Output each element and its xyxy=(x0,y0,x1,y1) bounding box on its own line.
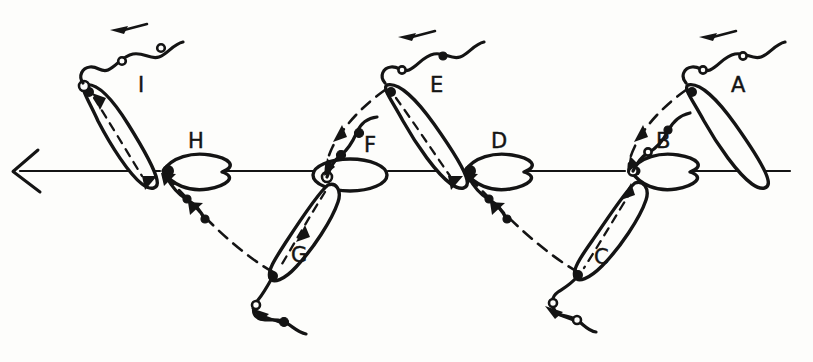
flagellum-bead-F-2 xyxy=(355,129,364,138)
flagellum-bead-E-1 xyxy=(398,66,405,73)
stage-label-F: F xyxy=(364,133,376,157)
stage-label-H: H xyxy=(188,129,204,153)
flagellum-I xyxy=(81,42,183,83)
flagellum-bead-I-2 xyxy=(157,44,165,52)
stage-label-G: G xyxy=(291,243,308,267)
trajectory-arrow-E-F-1 xyxy=(333,125,347,142)
flagellum-bead-F-1 xyxy=(337,151,346,160)
stage-G: G xyxy=(251,184,339,334)
stage-B: B xyxy=(627,90,698,190)
trajectory-arrow-A-B-1 xyxy=(634,125,648,142)
diagram-canvas: A B C xyxy=(0,0,813,362)
cell-body-C xyxy=(574,182,647,279)
cell-body-A xyxy=(687,85,769,189)
trajectory-G-to-H xyxy=(165,174,273,272)
flagellum-bead-A-1 xyxy=(699,66,706,73)
flagellum-G xyxy=(254,278,307,334)
flagellum-bead-C-1 xyxy=(549,299,557,307)
stage-label-C: C xyxy=(594,245,609,269)
nucleus-E xyxy=(386,87,396,97)
flagellum-bead-B-1 xyxy=(644,148,651,155)
stage-label-D: D xyxy=(491,129,508,153)
flagellum-bead-I-1 xyxy=(118,57,126,65)
stage-label-I: I xyxy=(138,73,145,97)
stage-label-E: E xyxy=(430,73,444,97)
stage-C: C xyxy=(545,182,647,332)
flagellum-bead-E-2 xyxy=(439,52,447,60)
flagellate-sequence-diagram: A B C xyxy=(0,0,813,362)
flagellum-bead-G-1 xyxy=(252,301,260,309)
trajectory-C-to-D xyxy=(467,174,578,272)
stage-D: D xyxy=(463,129,578,272)
flagellum-bead-G-2 xyxy=(280,318,289,327)
stage-F: F xyxy=(313,90,387,191)
stage-label-B: B xyxy=(656,129,671,153)
stage-label-A: A xyxy=(731,73,746,97)
nucleus-A xyxy=(687,87,697,97)
stage-H: H xyxy=(161,129,273,272)
flagellum-bead-A-2 xyxy=(739,52,746,59)
